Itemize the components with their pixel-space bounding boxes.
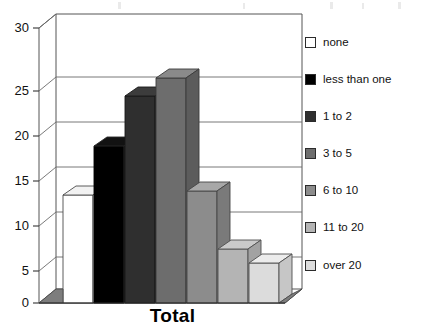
- y-tick-10: 10: [3, 219, 29, 232]
- legend-label: 3 to 5: [323, 147, 352, 160]
- legend-swatch-icon: [305, 260, 316, 271]
- legend-item-less-than-one[interactable]: less than one: [305, 70, 425, 88]
- legend-swatch-icon: [305, 74, 316, 85]
- bar-chart: 30 25 20 15 10 5 0 Total none less than …: [0, 0, 428, 336]
- x-axis-title: Total: [60, 305, 285, 327]
- legend: none less than one 1 to 2 3 to 5 6 to 10…: [305, 33, 425, 293]
- y-tick-5: 5: [3, 264, 29, 277]
- legend-label: 11 to 20: [323, 221, 364, 234]
- legend-item-over-20[interactable]: over 20: [305, 256, 425, 274]
- legend-label: 1 to 2: [323, 110, 352, 123]
- y-tick-30: 30: [3, 21, 29, 34]
- legend-item-1-to-2[interactable]: 1 to 2: [305, 107, 425, 125]
- y-tick-0: 0: [3, 296, 29, 309]
- bar-over-20: [249, 254, 292, 303]
- y-tick-20: 20: [3, 129, 29, 142]
- legend-swatch-icon: [305, 222, 316, 233]
- legend-label: none: [323, 36, 349, 49]
- y-axis-ticks: [33, 28, 39, 303]
- legend-item-3-to-5[interactable]: 3 to 5: [305, 145, 425, 163]
- legend-item-none[interactable]: none: [305, 33, 425, 51]
- legend-label: less than one: [323, 73, 391, 86]
- legend-label: over 20: [323, 259, 361, 272]
- legend-swatch-icon: [305, 148, 316, 159]
- legend-swatch-icon: [305, 111, 316, 122]
- y-tick-15: 15: [3, 174, 29, 187]
- legend-swatch-icon: [305, 185, 316, 196]
- legend-item-11-to-20[interactable]: 11 to 20: [305, 219, 425, 237]
- legend-item-6-to-10[interactable]: 6 to 10: [305, 182, 425, 200]
- y-tick-25: 25: [3, 84, 29, 97]
- legend-label: 6 to 10: [323, 184, 358, 197]
- legend-swatch-icon: [305, 37, 316, 48]
